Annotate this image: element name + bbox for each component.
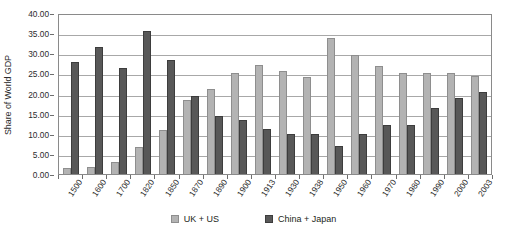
bar (239, 120, 247, 174)
y-tick-label: 10.00 (28, 131, 49, 139)
bar-group (299, 15, 323, 174)
bar (431, 108, 439, 174)
y-tick-label: 35.00 (28, 30, 49, 38)
legend-swatch-icon (265, 215, 273, 223)
bar-chart-figure: Share of World GDP 40.0035.0030.0025.002… (0, 0, 507, 237)
bar (215, 116, 223, 174)
y-tick-mark (50, 155, 54, 156)
x-tick-label: 1980 (404, 178, 421, 198)
bar-group (83, 15, 107, 174)
y-tick-mark (50, 54, 54, 55)
y-tick-mark (50, 175, 54, 176)
y-tick-mark (50, 115, 54, 116)
bar (335, 146, 343, 174)
x-tick-label: 1870 (187, 178, 204, 198)
bar (95, 47, 103, 174)
bar (375, 66, 383, 174)
x-tick-label: 1900 (235, 178, 252, 198)
y-tick-mark (50, 14, 54, 15)
x-tick-label: 1930 (283, 178, 300, 198)
bar (447, 73, 455, 174)
y-tick-mark (50, 34, 54, 35)
legend-label: UK + US (184, 214, 219, 224)
x-tick-label: 1938 (308, 178, 325, 198)
bar-group (155, 15, 179, 174)
bar (263, 129, 271, 174)
bar-groups (59, 15, 491, 174)
y-tick-label: 30.00 (28, 50, 49, 58)
y-tick-label: 5.00 (33, 151, 49, 159)
bar-group (323, 15, 347, 174)
bar-group (419, 15, 443, 174)
bar (423, 73, 431, 174)
x-tick-label: 2000 (452, 178, 469, 198)
x-tick-label: 1500 (66, 178, 83, 198)
bar (471, 76, 479, 174)
bar-group (107, 15, 131, 174)
bar (167, 60, 175, 174)
y-axis-tick-labels: 40.0035.0030.0025.0020.0015.0010.005.000… (16, 14, 54, 175)
x-tick-label: 2003 (476, 178, 493, 198)
legend-item[interactable]: China + Japan (265, 214, 336, 224)
legend-swatch-icon (171, 215, 179, 223)
x-tick-label: 1950 (332, 178, 349, 198)
bar-group (395, 15, 419, 174)
bar-group (443, 15, 467, 174)
chart-legend: UK + USChina + Japan (0, 214, 507, 224)
y-tick-label: 20.00 (28, 90, 49, 98)
bar (303, 77, 311, 174)
bar-group (203, 15, 227, 174)
x-tick-label: 1850 (163, 178, 180, 198)
bar (63, 168, 71, 174)
bar (351, 55, 359, 174)
bar (287, 134, 295, 174)
bar-group (59, 15, 83, 174)
bar (231, 73, 239, 174)
bar (407, 125, 415, 175)
bar-group (179, 15, 203, 174)
x-tick-label: 1890 (211, 178, 228, 198)
x-tick-label: 1970 (380, 178, 397, 198)
bar (383, 125, 391, 175)
y-tick-label: 40.00 (28, 10, 49, 18)
plot-area (58, 14, 492, 175)
x-tick-label: 1913 (259, 178, 276, 198)
bar (183, 100, 191, 174)
bar (191, 96, 199, 174)
y-tick-mark (50, 74, 54, 75)
bar (327, 38, 335, 174)
y-tick-label: 15.00 (28, 110, 49, 118)
x-tick-label: 1700 (115, 178, 132, 198)
x-tick-label: 1820 (139, 178, 156, 198)
bar-group (275, 15, 299, 174)
bar (279, 71, 287, 174)
y-axis-title-label: Share of World GDP (3, 54, 13, 134)
bar (143, 31, 151, 174)
bar (87, 167, 95, 174)
legend-item[interactable]: UK + US (171, 214, 219, 224)
bar-group (227, 15, 251, 174)
y-axis-title: Share of World GDP (0, 14, 16, 175)
bar (135, 147, 143, 174)
bar-group (467, 15, 491, 174)
bar (71, 62, 79, 174)
bar (399, 73, 407, 174)
x-tick-label: 1990 (428, 178, 445, 198)
bar-group (371, 15, 395, 174)
bar-group (347, 15, 371, 174)
y-tick-mark (50, 135, 54, 136)
x-axis-tick-labels: 1500160017001820185018701890190019131930… (58, 178, 492, 208)
bar (479, 92, 487, 174)
legend-label: China + Japan (278, 214, 336, 224)
bar (359, 134, 367, 174)
bar (455, 98, 463, 174)
y-tick-label: 0.00 (33, 171, 49, 179)
bar (311, 134, 319, 174)
bar (111, 162, 119, 174)
y-tick-label: 25.00 (28, 70, 49, 78)
x-tick-mark (492, 175, 493, 179)
bar (159, 130, 167, 174)
bar-group (131, 15, 155, 174)
bar (255, 65, 263, 174)
bar (207, 89, 215, 174)
